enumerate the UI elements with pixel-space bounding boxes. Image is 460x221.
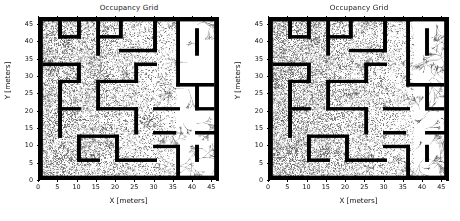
x-tick-mark bbox=[287, 179, 288, 182]
y-tick-mark-right bbox=[446, 128, 449, 129]
axis-label-x-right: X [meters] bbox=[268, 196, 449, 205]
x-tick-mark-top bbox=[96, 16, 97, 19]
y-tick-mark bbox=[267, 59, 270, 60]
x-tick-label: 0 bbox=[266, 183, 270, 191]
x-tick-mark-top bbox=[173, 16, 174, 19]
y-tick-label: 5 bbox=[230, 159, 263, 167]
x-tick-mark-top bbox=[134, 16, 135, 19]
x-tick-label: 10 bbox=[72, 183, 80, 191]
x-tick-label: 45 bbox=[437, 183, 445, 191]
y-tick-mark bbox=[37, 163, 40, 164]
occupancy-grid-canvas-left bbox=[39, 18, 218, 179]
y-tick-label: 10 bbox=[230, 141, 263, 149]
x-tick-label: 10 bbox=[302, 183, 310, 191]
x-tick-mark-top bbox=[38, 16, 39, 19]
x-tick-mark-top bbox=[77, 16, 78, 19]
x-tick-label: 5 bbox=[55, 183, 59, 191]
x-tick-label: 40 bbox=[188, 183, 196, 191]
y-tick-mark bbox=[267, 163, 270, 164]
y-tick-mark-right bbox=[216, 163, 219, 164]
y-tick-mark-right bbox=[216, 111, 219, 112]
x-tick-mark bbox=[154, 179, 155, 182]
y-tick-mark bbox=[267, 41, 270, 42]
x-tick-label: 35 bbox=[169, 183, 177, 191]
x-tick-mark bbox=[364, 179, 365, 182]
y-tick-mark bbox=[267, 111, 270, 112]
x-tick-label: 25 bbox=[360, 183, 368, 191]
x-tick-label: 15 bbox=[92, 183, 100, 191]
x-tick-label: 45 bbox=[207, 183, 215, 191]
y-tick-mark bbox=[267, 93, 270, 94]
y-tick-mark bbox=[267, 76, 270, 77]
subplot-right: Occupancy Grid 0510152025303540450510152… bbox=[230, 0, 460, 221]
y-tick-mark bbox=[37, 111, 40, 112]
x-tick-mark bbox=[134, 179, 135, 182]
x-tick-mark bbox=[384, 179, 385, 182]
x-tick-mark-top bbox=[307, 16, 308, 19]
y-tick-mark-right bbox=[446, 111, 449, 112]
occupancy-grid-figure: Occupancy Grid 0510152025303540450510152… bbox=[0, 0, 460, 221]
x-tick-mark-top bbox=[345, 16, 346, 19]
y-tick-mark-right bbox=[446, 24, 449, 25]
y-tick-label: 10 bbox=[0, 141, 33, 149]
x-tick-label: 30 bbox=[149, 183, 157, 191]
y-tick-mark-right bbox=[216, 128, 219, 129]
y-tick-mark-right bbox=[446, 180, 449, 181]
x-tick-mark-top bbox=[384, 16, 385, 19]
y-tick-label: 5 bbox=[0, 159, 33, 167]
x-tick-mark bbox=[403, 179, 404, 182]
x-tick-mark bbox=[96, 179, 97, 182]
y-tick-mark-right bbox=[216, 24, 219, 25]
x-tick-label: 0 bbox=[36, 183, 40, 191]
y-tick-label: 40 bbox=[0, 37, 33, 45]
y-tick-mark-right bbox=[216, 145, 219, 146]
y-tick-label: 0 bbox=[0, 176, 33, 184]
axis-label-y-right: Y [meters] bbox=[233, 46, 242, 116]
y-tick-mark-right bbox=[446, 76, 449, 77]
occupancy-grid-canvas-right bbox=[269, 18, 448, 179]
y-tick-mark-right bbox=[216, 59, 219, 60]
x-tick-label: 40 bbox=[418, 183, 426, 191]
y-tick-mark-right bbox=[446, 59, 449, 60]
y-tick-mark bbox=[37, 24, 40, 25]
y-tick-mark-right bbox=[446, 41, 449, 42]
y-tick-mark bbox=[267, 145, 270, 146]
y-tick-mark-right bbox=[446, 145, 449, 146]
x-tick-mark bbox=[192, 179, 193, 182]
x-tick-mark-top bbox=[364, 16, 365, 19]
x-tick-mark-top bbox=[268, 16, 269, 19]
y-tick-mark bbox=[37, 128, 40, 129]
y-tick-mark-right bbox=[446, 93, 449, 94]
x-tick-mark bbox=[345, 179, 346, 182]
y-tick-label: 0 bbox=[230, 176, 263, 184]
y-tick-mark-right bbox=[216, 41, 219, 42]
x-tick-mark bbox=[441, 179, 442, 182]
x-tick-mark bbox=[57, 179, 58, 182]
x-tick-mark-top bbox=[326, 16, 327, 19]
x-tick-mark bbox=[173, 179, 174, 182]
y-tick-label: 15 bbox=[0, 124, 33, 132]
y-tick-mark bbox=[37, 180, 40, 181]
y-tick-mark bbox=[37, 41, 40, 42]
panel-title-right: Occupancy Grid bbox=[268, 3, 450, 12]
y-tick-label: 45 bbox=[0, 20, 33, 28]
x-tick-mark bbox=[77, 179, 78, 182]
y-tick-label: 40 bbox=[230, 37, 263, 45]
x-tick-mark-top bbox=[57, 16, 58, 19]
axis-label-y-left: Y [meters] bbox=[3, 46, 12, 116]
y-tick-mark bbox=[267, 24, 270, 25]
x-tick-mark-top bbox=[192, 16, 193, 19]
x-tick-mark bbox=[115, 179, 116, 182]
y-tick-mark bbox=[37, 76, 40, 77]
y-tick-mark bbox=[267, 128, 270, 129]
axis-label-x-left: X [meters] bbox=[38, 196, 219, 205]
axes-right bbox=[268, 17, 449, 180]
x-tick-label: 20 bbox=[111, 183, 119, 191]
x-tick-mark-top bbox=[441, 16, 442, 19]
x-tick-mark bbox=[326, 179, 327, 182]
y-tick-label: 15 bbox=[230, 124, 263, 132]
x-tick-mark bbox=[307, 179, 308, 182]
panel-title-left: Occupancy Grid bbox=[38, 3, 220, 12]
axes-left bbox=[38, 17, 219, 180]
y-tick-mark-right bbox=[216, 180, 219, 181]
